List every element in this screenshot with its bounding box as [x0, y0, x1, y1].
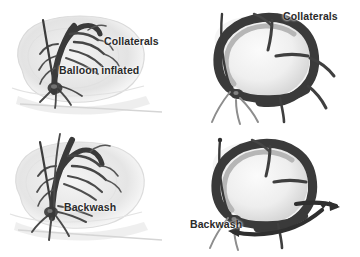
- medical-illustration-figure: Collaterals Balloon inflated Backwash Co…: [0, 0, 360, 257]
- collateral-branch: [308, 86, 326, 108]
- panel-bottom-right-closeup: [180, 128, 360, 257]
- balloon-highlight: [51, 84, 57, 88]
- collateral-branch: [276, 55, 308, 57]
- wire-fork: [212, 92, 230, 122]
- closeup-backwash-drawing: [180, 128, 360, 257]
- collateral-branch: [274, 181, 306, 183]
- catheter-tip-marker: [218, 138, 222, 142]
- label-balloon-inflated: Balloon inflated: [59, 65, 139, 76]
- label-backwash-bottom-right: Backwash: [190, 219, 242, 230]
- angiogram-backwash-drawing: [0, 128, 180, 257]
- balloon-highlight: [233, 91, 238, 95]
- label-backwash-bottom-left: Backwash: [64, 202, 116, 213]
- flow-arrow-curved-head: [329, 201, 340, 211]
- label-collaterals-top-left: Collaterals: [104, 36, 159, 47]
- wire-fork: [236, 100, 240, 124]
- panel-bottom-left-angiogram: [0, 128, 180, 257]
- balloon-highlight: [47, 209, 52, 213]
- label-collaterals-top-right: Collaterals: [283, 11, 338, 22]
